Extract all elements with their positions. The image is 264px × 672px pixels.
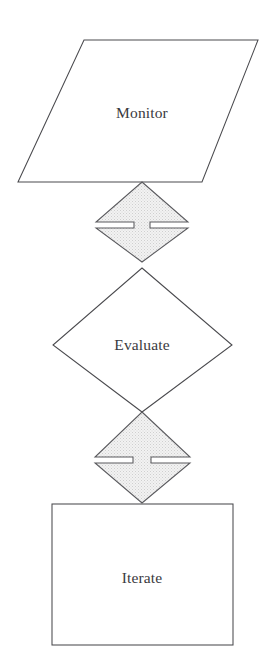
evaluate-label: Evaluate <box>114 336 169 353</box>
flowchart-diagram: Monitor Evaluate Iterate <box>0 0 264 672</box>
monitor-label: Monitor <box>116 104 169 121</box>
connector-evaluate-iterate[interactable] <box>95 412 190 503</box>
node-monitor[interactable]: Monitor <box>18 40 258 182</box>
double-headed-arrow-icon <box>95 412 190 503</box>
node-iterate[interactable]: Iterate <box>52 504 233 645</box>
double-headed-arrow-icon <box>96 182 188 262</box>
node-evaluate[interactable]: Evaluate <box>53 268 232 412</box>
flowchart-canvas: Monitor Evaluate Iterate <box>0 0 264 672</box>
connector-monitor-evaluate[interactable] <box>96 182 188 262</box>
iterate-label: Iterate <box>122 569 163 586</box>
